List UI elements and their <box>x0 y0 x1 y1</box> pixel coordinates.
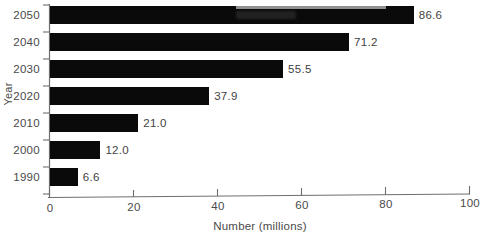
y-tick-label-2010: 2010 <box>2 117 40 129</box>
y-tick-label-2030: 2030 <box>2 63 40 75</box>
y-tick-label-2040: 2040 <box>2 36 40 48</box>
x-tick-label-60: 60 <box>282 199 322 211</box>
y-tick-label-2000: 2000 <box>2 144 40 156</box>
bar-value-2050: 86.6 <box>419 9 443 21</box>
bar-value-1990: 6.6 <box>83 171 100 183</box>
bar-2010 <box>50 114 138 132</box>
bar-value-2020: 37.9 <box>214 90 238 102</box>
bar-value-2010: 21.0 <box>143 117 167 129</box>
y-tick-label-2020: 2020 <box>2 90 40 102</box>
y-tick-label-1990: 1990 <box>2 171 40 183</box>
x-tick-label-100: 100 <box>450 197 482 209</box>
x-tick-label-40: 40 <box>198 200 238 212</box>
bar-value-2030: 55.5 <box>288 63 312 75</box>
x-axis-title: Number (millions) <box>150 220 370 232</box>
x-tick-label-80: 80 <box>366 198 406 210</box>
bar-value-2000: 12.0 <box>105 144 129 156</box>
bar-1990 <box>50 168 78 186</box>
bar-chart: Year 2050 2040 2030 2020 2010 2000 1990 … <box>0 0 482 237</box>
x-tick-label-0: 0 <box>30 202 70 214</box>
scan-artifact-highlight <box>236 6 386 9</box>
bar-2030 <box>50 60 283 78</box>
bar-2000 <box>50 141 100 159</box>
bar-2040 <box>50 33 349 51</box>
x-tick-label-20: 20 <box>114 201 154 213</box>
bar-2020 <box>50 87 209 105</box>
y-tick-label-2050: 2050 <box>2 9 40 21</box>
scan-artifact-smudge <box>236 11 296 19</box>
bar-value-2040: 71.2 <box>354 36 378 48</box>
